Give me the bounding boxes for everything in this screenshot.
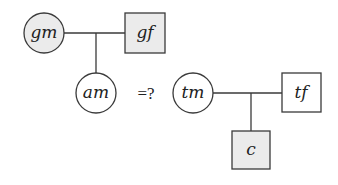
grandmother-label: gm	[30, 22, 57, 42]
grandfather-node: gf	[125, 13, 165, 53]
alleged-mother-label: am	[83, 82, 109, 102]
child-label: c	[246, 139, 256, 159]
grandmother-node: gm	[24, 13, 64, 53]
alleged-mother-node: am	[76, 73, 116, 113]
pedigree-diagram: gm gf am =? tm tf c	[0, 0, 338, 185]
child-node: c	[232, 131, 270, 169]
grandfather-label: gf	[136, 22, 156, 42]
tested-mother-label: tm	[182, 82, 205, 102]
tested-mother-node: tm	[173, 73, 213, 113]
identity-question-label: =?	[137, 84, 154, 103]
tested-father-node: tf	[282, 73, 321, 112]
